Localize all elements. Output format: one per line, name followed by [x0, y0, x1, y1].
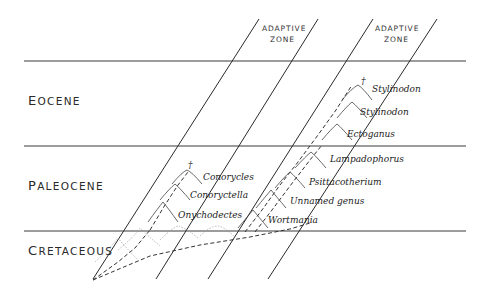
extinction-marker-left: †	[188, 160, 193, 170]
zone-1-label-line1: ADAPTIVE	[262, 24, 306, 33]
zone-2-label-line2: ZONE	[384, 35, 409, 44]
taxon-ectoganus: Ectoganus	[346, 129, 395, 139]
taxon-lampadophorus: Lampadophorus	[329, 154, 404, 164]
conoryctella-curve	[160, 184, 190, 200]
zone-2-label-line1: ADAPTIVE	[375, 24, 419, 33]
adaptive-zone-diagram: ADAPTIVE ZONE ADAPTIVE ZONE EOCENE PALEO…	[0, 0, 487, 301]
taxon-conorycles: Conorycles	[203, 172, 254, 182]
lampadophorus-curve	[295, 152, 326, 168]
psittacotherium-curve	[275, 172, 305, 188]
taxon-psittacotherium: Psittacotherium	[308, 177, 382, 187]
taxon-stylinodon-upper: Stylinodon	[372, 84, 421, 94]
epoch-paleocene: PALEOCENE	[28, 178, 104, 193]
extinction-marker-right: †	[361, 76, 366, 86]
epoch-cretaceous: CRETACEOUS	[28, 243, 113, 258]
epoch-eocene: EOCENE	[28, 93, 81, 108]
onychodectes-curve	[148, 202, 178, 222]
taxon-stylinodon-lower: Stylinodon	[360, 107, 409, 117]
cretaceous-curve	[160, 226, 198, 240]
unnamed-genus-curve	[256, 190, 286, 208]
taxon-unnamed-genus: Unnamed genus	[290, 196, 365, 206]
taxon-onychodectes: Onychodectes	[178, 210, 243, 220]
diagram-svg: ADAPTIVE ZONE ADAPTIVE ZONE EOCENE PALEO…	[0, 0, 487, 301]
conorycles-curve	[172, 170, 202, 184]
taxon-conoryctella: Conoryctella	[190, 190, 248, 200]
zone-1-left-boundary	[93, 19, 259, 279]
stylinodon-curve-upper	[342, 85, 372, 100]
taxon-wortmania: Wortmania	[268, 215, 318, 225]
zone-1-label-line2: ZONE	[270, 35, 295, 44]
